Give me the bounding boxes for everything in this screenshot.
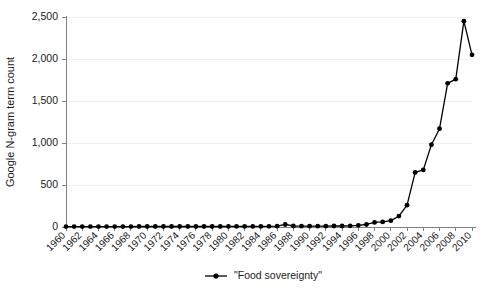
ngram-line-chart: 05001,0001,5002,0002,500 196019621964196… <box>0 0 488 292</box>
data-point <box>210 224 215 229</box>
x-axis-ticks-group: 1960196219641966196819701972197419761978… <box>44 227 474 253</box>
data-point <box>145 224 150 229</box>
data-point <box>194 224 199 229</box>
data-point <box>413 170 418 175</box>
data-point <box>80 224 85 229</box>
data-point <box>226 224 231 229</box>
data-point <box>169 224 174 229</box>
data-point <box>72 224 77 229</box>
data-point <box>291 224 296 229</box>
data-point <box>356 223 361 228</box>
legend-marker-icon <box>213 273 218 278</box>
data-point <box>177 224 182 229</box>
data-point <box>332 224 337 229</box>
y-tick-label: 2,000 <box>32 52 58 64</box>
data-point <box>258 224 263 229</box>
y-tick-label: 2,500 <box>32 10 58 22</box>
x-tick-label: 2010 <box>450 229 474 253</box>
data-point <box>445 81 450 86</box>
data-point <box>104 224 109 229</box>
data-point <box>348 223 353 228</box>
data-point <box>307 224 312 229</box>
y-tick-label: 500 <box>40 178 58 190</box>
data-point <box>340 224 345 229</box>
data-point <box>120 224 125 229</box>
data-point <box>388 218 393 223</box>
series-line-food-sovereignty <box>66 21 472 226</box>
data-point <box>275 224 280 229</box>
chart-legend: "Food sovereignty" <box>205 269 322 281</box>
data-point <box>364 222 369 227</box>
data-point <box>250 224 255 229</box>
data-point <box>405 203 410 208</box>
data-point <box>153 224 158 229</box>
legend-label: "Food sovereignty" <box>234 269 322 281</box>
data-point <box>137 224 142 229</box>
data-point <box>64 224 69 229</box>
data-point <box>461 19 466 24</box>
data-point <box>299 224 304 229</box>
data-point <box>161 224 166 229</box>
y-tick-label: 1,500 <box>32 94 58 106</box>
data-point <box>380 220 385 225</box>
data-point <box>267 224 272 229</box>
data-point <box>453 77 458 82</box>
data-point <box>202 224 207 229</box>
data-point <box>96 224 101 229</box>
data-point <box>218 224 223 229</box>
data-point <box>129 224 134 229</box>
data-point <box>372 220 377 225</box>
data-point <box>185 224 190 229</box>
data-point <box>397 214 402 219</box>
y-tick-label: 1,000 <box>32 136 58 148</box>
data-point <box>421 167 426 172</box>
data-point <box>242 224 247 229</box>
data-point <box>88 224 93 229</box>
data-point <box>437 126 442 131</box>
data-point <box>283 222 288 227</box>
data-point <box>112 224 117 229</box>
gridlines-group <box>66 17 472 185</box>
chart-svg: 05001,0001,5002,0002,500 196019621964196… <box>0 0 488 292</box>
data-point <box>323 224 328 229</box>
series-points-group <box>64 19 475 229</box>
data-point <box>315 224 320 229</box>
y-axis-title: Google N-gram term count <box>4 57 16 187</box>
data-point <box>234 224 239 229</box>
y-tick-label: 0 <box>52 220 58 232</box>
data-point <box>470 52 475 57</box>
data-point <box>429 142 434 147</box>
y-axis-ticks-group: 05001,0001,5002,0002,500 <box>32 10 66 232</box>
